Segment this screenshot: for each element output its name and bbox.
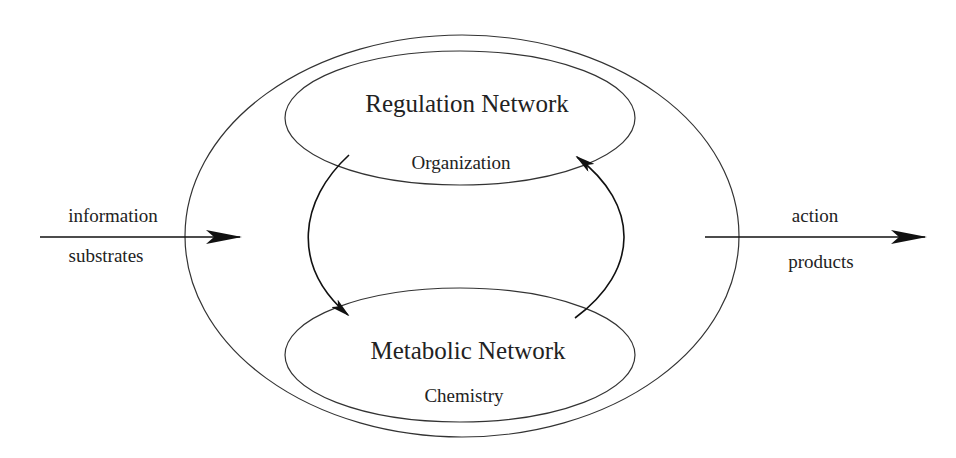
input-label-information: information [68,205,158,226]
regulation-to-metabolic-arrow [308,155,349,315]
input-arrow-group: information substrates [40,205,240,266]
regulation-network-title: Regulation Network [365,90,569,117]
input-label-substrates: substrates [69,245,144,266]
regulation-network-subtitle: Organization [412,152,511,173]
diagram-canvas: Regulation Network Organization Metaboli… [0,0,956,458]
regulation-network-node: Regulation Network Organization [285,51,635,185]
metabolic-network-node: Metabolic Network Chemistry [285,288,635,422]
metabolic-network-subtitle: Chemistry [424,385,504,406]
metabolic-to-regulation-arrow [575,157,624,318]
metabolic-network-title: Metabolic Network [370,337,566,364]
output-label-action: action [792,205,839,226]
output-label-products: products [788,251,853,272]
